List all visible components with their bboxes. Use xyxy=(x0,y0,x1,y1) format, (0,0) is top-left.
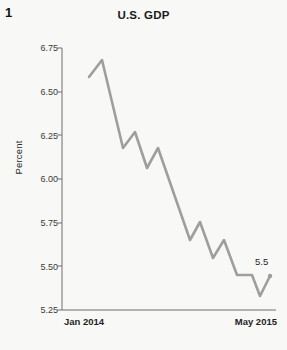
x-axis-tick-labels: Jan 2014 May 2015 xyxy=(0,316,287,336)
data-end-point-marker xyxy=(268,274,272,278)
data-series-line xyxy=(89,60,270,296)
x-tick-label-start: Jan 2014 xyxy=(64,316,104,327)
data-point-value-label: 5.5 xyxy=(255,256,268,267)
chart-plot-area xyxy=(0,0,287,350)
figure-container: 1 U.S. GDP Percent 6.75 6.50 6.25 6.00 5… xyxy=(0,0,287,350)
x-tick-label-end: May 2015 xyxy=(235,316,277,327)
y-axis-ticks xyxy=(57,48,62,310)
